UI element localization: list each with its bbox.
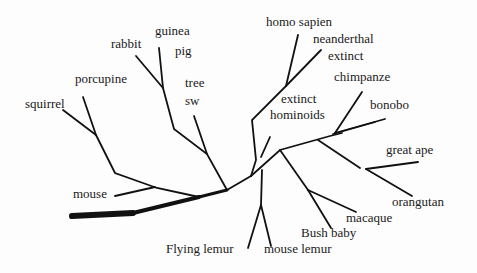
branch-rabbit (136, 56, 163, 88)
branch-guinea-pig (159, 48, 163, 88)
branch-extinct-hominoids (261, 137, 270, 157)
label-bonobo: bonobo (370, 97, 409, 112)
label-tree-shrew-line2: sw (185, 93, 199, 108)
label-rabbit: rabbit (111, 36, 141, 51)
branch-bushbaby-stem (280, 150, 308, 190)
branch-neanderthal (286, 50, 321, 86)
label-extinct-hominoids-line1: extinct (281, 91, 316, 106)
label-porcupine: porcupine (75, 71, 127, 86)
label-flying-lemur: Flying lemur (166, 241, 234, 256)
branch-mouse-lemur (261, 205, 271, 246)
label-neanderthal-line2: extinct (328, 48, 363, 63)
label-extinct-hominoids-line2: hominoids (270, 107, 325, 122)
phylogenetic-tree-diagram: squirrel porcupine rabbit guinea pig tre… (0, 0, 477, 273)
root-branch-upper (199, 190, 227, 197)
label-neanderthal-line1: neanderthal (313, 31, 374, 46)
branch-mouse (115, 187, 155, 196)
branch-anthropoid (251, 133, 342, 176)
label-guinea-pig-line1: guinea (155, 23, 190, 38)
branch-lemur-stem (261, 170, 262, 205)
label-bush-baby: Bush baby (301, 225, 356, 240)
branch-flying-lemur (248, 205, 261, 248)
label-macaque: macaque (346, 210, 392, 225)
branch-orangutan (366, 169, 412, 196)
label-guinea-pig-line2: pig (175, 43, 192, 58)
branch-great-ape (366, 162, 418, 169)
label-great-ape: great ape (386, 142, 433, 157)
branch-rodent-stem (96, 135, 199, 197)
branch-great-ape-stem (318, 140, 360, 168)
branch-primate-stem (227, 176, 251, 190)
label-homo-sapien: homo sapien (266, 14, 332, 29)
root-branch-mid (133, 197, 199, 213)
root-branch (72, 213, 133, 216)
label-orangutan: orangutan (392, 194, 444, 209)
label-squirrel: squirrel (25, 96, 65, 111)
label-chimpanzee: chimpanze (334, 69, 390, 84)
tree-branches (0, 0, 477, 273)
label-mouse: mouse (73, 186, 107, 201)
label-mouse-lemur: mouse lemur (264, 241, 332, 256)
label-tree-shrew-line1: tree (185, 75, 204, 90)
